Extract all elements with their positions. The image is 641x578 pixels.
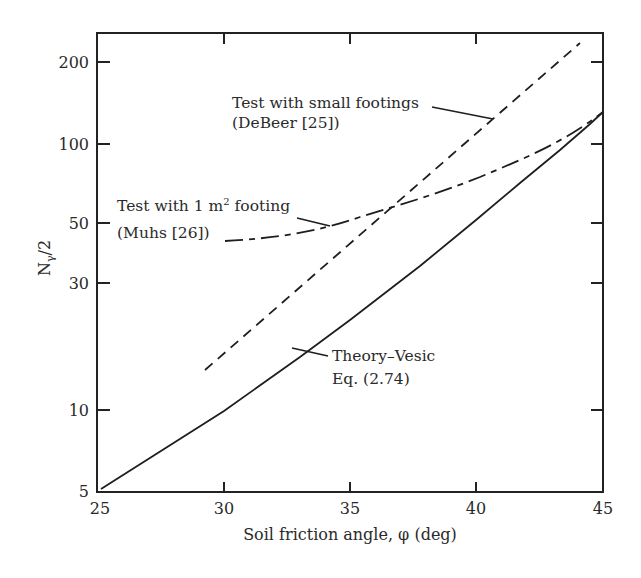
annotation-theory: Theory–Vesic Eq. (2.74) — [332, 347, 435, 388]
x-tick-label: 25 — [90, 499, 110, 518]
y-tick-label: 30 — [69, 274, 89, 293]
y-tick-label: 100 — [58, 135, 89, 154]
x-tick-label: 45 — [593, 499, 613, 518]
annotation-muhs-line1b: footing — [230, 197, 290, 215]
leader-debeer — [432, 107, 493, 119]
annotation-debeer: Test with small footings (DeBeer [25]) — [232, 94, 419, 132]
x-tick-labels: 25 30 35 40 45 — [90, 499, 613, 518]
y-tick-labels: 200 100 50 30 10 5 — [58, 53, 89, 501]
chart: 200 100 50 30 10 5 25 30 35 40 45 Soil f… — [0, 0, 641, 578]
x-tick-label: 30 — [214, 499, 234, 518]
y-tick-label: 50 — [69, 214, 89, 233]
annotation-debeer-line1: Test with small footings — [232, 94, 419, 112]
y-axis-title: Nγ/2 — [35, 240, 57, 276]
y-tick-label: 10 — [69, 401, 89, 420]
y-tick-label: 200 — [58, 53, 89, 72]
annotation-theory-line1: Theory–Vesic — [332, 347, 435, 365]
series-theory-vesic — [101, 112, 603, 489]
y-axis-title-tail: /2 — [35, 240, 54, 256]
x-axis-title: Soil friction angle, φ (deg) — [243, 525, 457, 544]
y-tick-label: 5 — [79, 482, 89, 501]
x-ticks-bottom — [224, 482, 476, 492]
annotation-muhs-line2: (Muhs [26]) — [117, 224, 210, 242]
annotation-muhs-line1a: Test with 1 m — [117, 197, 224, 215]
x-ticks-top — [224, 33, 476, 44]
svg-text:Test with 1 m2 footing: Test with 1 m2 footing — [117, 196, 290, 215]
annotation-debeer-line2: (DeBeer [25]) — [232, 114, 340, 132]
annotation-theory-line2: Eq. (2.74) — [332, 370, 410, 388]
y-ticks-left — [97, 62, 110, 410]
x-tick-label: 40 — [466, 499, 486, 518]
leader-muhs — [297, 218, 330, 226]
y-axis-title-main: N — [35, 262, 54, 276]
svg-text:Nγ/2: Nγ/2 — [35, 240, 57, 276]
annotation-muhs: Test with 1 m2 footing (Muhs [26]) — [117, 196, 290, 242]
x-tick-label: 35 — [340, 499, 360, 518]
